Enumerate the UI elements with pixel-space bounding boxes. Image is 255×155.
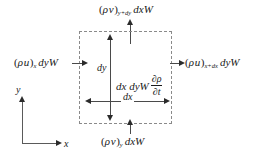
subscript-top: y+dy bbox=[118, 9, 131, 16]
axis-x-arrowhead bbox=[56, 140, 62, 146]
dimension-arrow-dy-shaft bbox=[110, 38, 111, 117]
fraction-numerator: ∂ρ bbox=[151, 74, 163, 85]
fraction-denominator: ∂t bbox=[151, 87, 163, 98]
subscript-bottom: y bbox=[120, 141, 123, 148]
dimension-arrow-dy-head-bottom bbox=[107, 115, 113, 121]
dimension-arrow-dy-head-top bbox=[107, 34, 113, 40]
flux-label-right: (ρu)x+dxdyW bbox=[185, 57, 239, 69]
flux-arrow-right-head bbox=[179, 60, 185, 66]
control-volume-diagram: (ρv)y+dydxW (ρu)xdyW (ρu)x+dxdyW dy dx d… bbox=[0, 0, 255, 155]
flux-tail-right: dyW bbox=[220, 56, 240, 68]
flux-tail-bottom: dxW bbox=[125, 135, 145, 147]
dimension-arrow-dx-head-left bbox=[85, 98, 91, 104]
axis-y-shaft bbox=[22, 101, 23, 144]
subscript-right: x+dx bbox=[204, 62, 217, 69]
partial-derivative-fraction: ∂ρ ∂t bbox=[151, 74, 163, 97]
flux-tail-top: dxW bbox=[133, 3, 153, 15]
flux-arrow-bottom-shaft bbox=[130, 124, 131, 134]
flux-arrow-bottom-head bbox=[127, 119, 133, 125]
flux-tail-left: dyW bbox=[38, 56, 58, 68]
dimension-label-dy: dy bbox=[97, 63, 106, 73]
subscript-left: x bbox=[33, 62, 36, 69]
flux-arrow-left-head bbox=[82, 60, 88, 66]
axis-x-shaft bbox=[22, 143, 58, 144]
axis-label-y: y bbox=[16, 84, 20, 95]
storage-term-prefix: dx dyW bbox=[116, 80, 149, 92]
flux-arrow-top-head bbox=[127, 19, 133, 25]
axis-y-arrowhead bbox=[19, 96, 25, 102]
flux-label-top: (ρv)y+dydxW bbox=[99, 4, 153, 16]
axis-label-x: x bbox=[64, 138, 68, 149]
storage-term: dx dyW ∂ρ ∂t bbox=[116, 74, 162, 97]
dimension-arrow-dx-head-right bbox=[164, 98, 170, 104]
flux-label-bottom: (ρv)ydxW bbox=[101, 136, 144, 148]
flux-label-left: (ρu)xdyW bbox=[14, 57, 58, 69]
